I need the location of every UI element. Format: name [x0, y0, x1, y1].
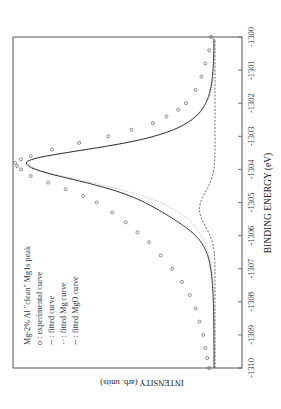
- tick-label: -1306: [246, 226, 256, 246]
- data-point: [171, 267, 174, 270]
- tick-label: -1303: [246, 126, 256, 146]
- fitted-mgo-curve: [200, 39, 216, 368]
- data-point: [107, 135, 110, 138]
- data-point: [20, 168, 23, 171]
- data-point: [16, 165, 19, 168]
- data-point: [124, 221, 127, 224]
- tick-label: -1300: [246, 27, 256, 47]
- data-point: [165, 115, 168, 118]
- legend-fitted-mgo: -- : fitted MgO curve: [71, 276, 80, 345]
- tick-label: -1304: [246, 159, 256, 180]
- data-point: [194, 307, 197, 310]
- data-point: [181, 280, 184, 283]
- legend: Mg-2% Al "clean" Mg1s peak o : experimen…: [23, 245, 80, 345]
- tick-label: -1309: [246, 325, 256, 345]
- data-point: [204, 62, 207, 65]
- data-point: [78, 141, 81, 144]
- data-point: [194, 88, 197, 91]
- data-point: [51, 148, 54, 151]
- data-point: [159, 254, 162, 257]
- data-point: [206, 357, 209, 360]
- data-point: [198, 320, 201, 323]
- legend-title: Mg-2% Al "clean" Mg1s peak: [23, 245, 32, 345]
- data-point: [208, 49, 211, 52]
- data-point: [29, 175, 32, 178]
- data-point: [95, 201, 98, 204]
- data-point: [204, 347, 207, 350]
- data-point: [184, 102, 187, 105]
- x-axis-title: BINDING ENERGY (eV): [263, 153, 274, 253]
- data-point: [64, 188, 67, 191]
- xps-chart: Mg-2% Al "clean" Mg1s peak o : experimen…: [0, 0, 281, 409]
- legend-fitted: -- : fitted curve: [47, 295, 56, 345]
- data-point: [200, 75, 203, 78]
- data-point: [177, 108, 180, 111]
- tick-label: -1308: [246, 292, 256, 312]
- y-axis-title: INTENSITY (arb. units): [100, 378, 184, 388]
- x-axis-ticks: [238, 37, 242, 368]
- data-point: [20, 158, 23, 161]
- data-point: [148, 241, 151, 244]
- legend-experimental: o : experimental curve: [35, 271, 44, 345]
- tick-label: -1307: [246, 259, 256, 279]
- data-point: [151, 122, 154, 125]
- data-point: [136, 231, 139, 234]
- tick-label: -1305: [246, 193, 256, 213]
- tick-label: -1301: [246, 60, 256, 80]
- data-point: [47, 181, 50, 184]
- tick-label: -1310: [246, 358, 256, 378]
- data-point: [111, 211, 114, 214]
- data-point: [29, 155, 32, 158]
- data-point: [82, 194, 85, 197]
- data-point: [130, 128, 133, 131]
- x-axis-tick-labels: -1310-1309-1308-1307-1306-1305-1304-1303…: [246, 27, 256, 378]
- data-point: [188, 294, 191, 297]
- legend-fitted-mg: ·· : fitted Mg curve: [59, 282, 68, 345]
- tick-label: -1302: [246, 93, 256, 113]
- data-point: [202, 333, 205, 336]
- data-point: [14, 161, 17, 164]
